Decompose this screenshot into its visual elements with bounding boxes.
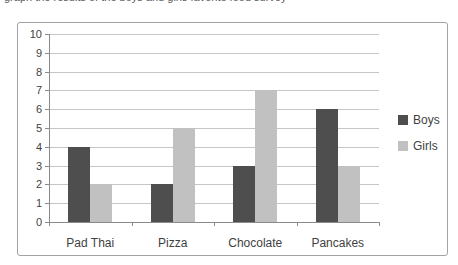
legend-label-boys: Boys — [413, 113, 440, 127]
x-axis-category-label: Pizza — [132, 236, 215, 251]
y-axis-tick-label: 4 — [16, 140, 42, 154]
y-axis-tick-label: 8 — [16, 65, 42, 79]
x-axis-tick — [49, 222, 50, 226]
x-axis-category-label: Pad Thai — [49, 236, 132, 251]
y-axis-tick-label: 1 — [16, 196, 42, 210]
legend-label-girls: Girls — [413, 139, 438, 153]
gridline — [49, 34, 379, 35]
x-axis-tick — [214, 222, 215, 226]
x-axis-category-label: Pancakes — [297, 236, 380, 251]
bar-girls-chocolate — [255, 90, 277, 222]
y-axis-tick-label: 9 — [16, 46, 42, 60]
bar-chart: 012345678910Pad ThaiPizzaChocolatePancak… — [17, 22, 448, 256]
bar-girls-pizza — [173, 128, 195, 222]
gridline — [49, 53, 379, 54]
y-axis-line — [49, 34, 50, 222]
x-axis-tick — [379, 222, 380, 226]
y-axis-tick-label: 5 — [16, 121, 42, 135]
y-axis-tick-label: 6 — [16, 102, 42, 116]
bar-girls-pad-thai — [90, 184, 112, 222]
bar-boys-chocolate — [233, 166, 255, 222]
legend-swatch-boys — [398, 115, 408, 125]
bar-boys-pancakes — [316, 109, 338, 222]
bar-boys-pizza — [151, 184, 173, 222]
y-axis-tick-label: 10 — [16, 27, 42, 41]
y-axis-tick-label: 3 — [16, 159, 42, 173]
bar-boys-pad-thai — [68, 147, 90, 222]
legend-swatch-girls — [398, 141, 408, 151]
y-axis-tick-label: 0 — [16, 215, 42, 229]
gridline — [49, 72, 379, 73]
legend-item-boys: Boys — [398, 113, 440, 127]
chart-legend: BoysGirls — [398, 113, 440, 153]
page: graph the results of the boys and girls … — [0, 0, 458, 265]
x-axis-tick — [297, 222, 298, 226]
x-axis-category-label: Chocolate — [214, 236, 297, 251]
y-axis-tick-label: 2 — [16, 177, 42, 191]
clipped-text-content: graph the results of the boys and girls … — [4, 0, 344, 3]
bar-girls-pancakes — [338, 166, 360, 222]
clipped-text-fragment: graph the results of the boys and girls … — [4, 0, 344, 5]
y-axis-tick-label: 7 — [16, 83, 42, 97]
x-axis-tick — [132, 222, 133, 226]
gridline — [49, 90, 379, 91]
legend-item-girls: Girls — [398, 139, 440, 153]
